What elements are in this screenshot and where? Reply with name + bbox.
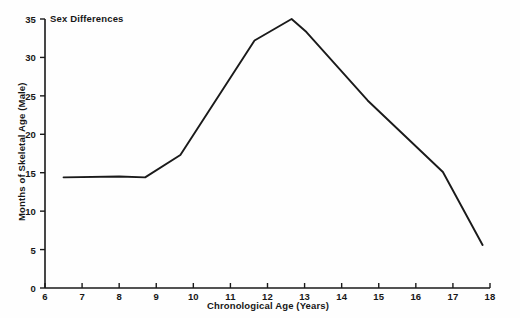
y-tick-label: 15 [8, 167, 36, 178]
chart-container: Sex Differences Months of Skeletal Age (… [0, 0, 520, 318]
x-tick-label: 13 [299, 291, 310, 302]
y-tick-label: 25 [8, 90, 36, 101]
chart-plot-svg [0, 0, 520, 318]
x-tick-label: 8 [116, 291, 121, 302]
x-tick-label: 9 [154, 291, 159, 302]
x-tick-label: 18 [485, 291, 496, 302]
y-tick-label: 5 [8, 244, 36, 255]
y-tick-label: 20 [8, 129, 36, 140]
x-tick-label: 17 [448, 291, 459, 302]
y-tick-label: 10 [8, 206, 36, 217]
x-tick-label: 15 [373, 291, 384, 302]
x-tick-label: 12 [262, 291, 273, 302]
x-tick-label: 11 [225, 291, 235, 302]
x-tick-label: 10 [188, 291, 199, 302]
x-tick-label: 7 [79, 291, 84, 302]
data-series-line [64, 19, 483, 245]
x-tick-label: 14 [336, 291, 347, 302]
y-axis-title: Months of Skeletal Age (Male) [16, 82, 27, 221]
y-tick-label: 35 [8, 14, 36, 25]
y-tick-label: 30 [8, 52, 36, 63]
y-tick-label: 0 [8, 283, 36, 294]
chart-title: Sex Differences [50, 13, 124, 24]
x-tick-label: 6 [42, 291, 47, 302]
x-tick-label: 16 [410, 291, 421, 302]
